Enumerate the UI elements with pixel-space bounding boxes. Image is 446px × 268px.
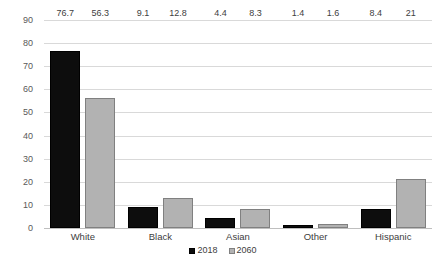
plot-area: 76.756.39.112.84.48.31.41.68.421 xyxy=(44,20,432,228)
bar-value-label: 8.3 xyxy=(249,9,262,18)
y-axis-tick-label: 70 xyxy=(23,62,33,71)
bar-value-label: 9.1 xyxy=(137,9,150,18)
bar-value-label: 21 xyxy=(406,9,416,18)
bar-column: 1.4 xyxy=(283,20,313,228)
legend-item[interactable]: 2018 xyxy=(189,246,217,255)
bar-group: 8.421 xyxy=(354,20,432,228)
y-axis-tick-label: 50 xyxy=(23,108,33,117)
x-axis-category-label: Hispanic xyxy=(354,230,432,246)
axis-baseline xyxy=(44,228,432,229)
bar-group: 9.112.8 xyxy=(122,20,200,228)
y-axis-tick-label: 80 xyxy=(23,39,33,48)
bar-value-label: 76.7 xyxy=(57,9,75,18)
bar: 1.6 xyxy=(318,224,348,228)
y-axis-tick-label: 0 xyxy=(28,224,33,233)
bar: 12.8 xyxy=(163,198,193,228)
bar-group: 76.756.3 xyxy=(44,20,122,228)
legend-swatch-icon xyxy=(189,248,195,254)
bar-value-label: 8.4 xyxy=(369,9,382,18)
bar-column: 8.3 xyxy=(240,20,270,228)
bar-value-label: 56.3 xyxy=(92,9,110,18)
bar: 76.7 xyxy=(50,51,80,228)
y-axis-tick-label: 10 xyxy=(23,200,33,209)
y-axis-tick-label: 90 xyxy=(23,16,33,25)
bar: 4.4 xyxy=(205,218,235,228)
x-axis: WhiteBlackAsianOtherHispanic xyxy=(44,230,432,246)
x-axis-category-label: Black xyxy=(122,230,200,246)
bar-chart: 9080706050403020100 76.756.39.112.84.48.… xyxy=(0,0,446,268)
bar-value-label: 1.4 xyxy=(292,9,305,18)
bar-groups: 76.756.39.112.84.48.31.41.68.421 xyxy=(44,20,432,228)
bar: 1.4 xyxy=(283,225,313,228)
bar: 56.3 xyxy=(85,98,115,228)
bar: 9.1 xyxy=(128,207,158,228)
legend-item[interactable]: 2060 xyxy=(229,246,257,255)
bar-value-label: 4.4 xyxy=(214,9,227,18)
x-axis-category-label: Asian xyxy=(199,230,277,246)
bar-column: 4.4 xyxy=(205,20,235,228)
y-axis: 9080706050403020100 xyxy=(0,20,40,228)
bar: 8.4 xyxy=(361,209,391,228)
legend-label: 2018 xyxy=(197,246,217,255)
bar-column: 21 xyxy=(396,20,426,228)
y-axis-tick-label: 30 xyxy=(23,154,33,163)
y-axis-tick-label: 40 xyxy=(23,131,33,140)
y-axis-tick-label: 60 xyxy=(23,85,33,94)
legend-label: 2060 xyxy=(237,246,257,255)
bar-value-label: 1.6 xyxy=(327,9,340,18)
bar-column: 1.6 xyxy=(318,20,348,228)
bar-value-label: 12.8 xyxy=(169,9,187,18)
bar-column: 9.1 xyxy=(128,20,158,228)
legend-swatch-icon xyxy=(229,248,235,254)
bar-column: 76.7 xyxy=(50,20,80,228)
bar-group: 1.41.6 xyxy=(277,20,355,228)
x-axis-category-label: Other xyxy=(277,230,355,246)
bar: 8.3 xyxy=(240,209,270,228)
x-axis-category-label: White xyxy=(44,230,122,246)
bar-column: 8.4 xyxy=(361,20,391,228)
bar: 21 xyxy=(396,179,426,228)
chart-legend: 20182060 xyxy=(0,246,446,255)
bar-group: 4.48.3 xyxy=(199,20,277,228)
bar-column: 12.8 xyxy=(163,20,193,228)
bar-column: 56.3 xyxy=(85,20,115,228)
y-axis-tick-label: 20 xyxy=(23,177,33,186)
